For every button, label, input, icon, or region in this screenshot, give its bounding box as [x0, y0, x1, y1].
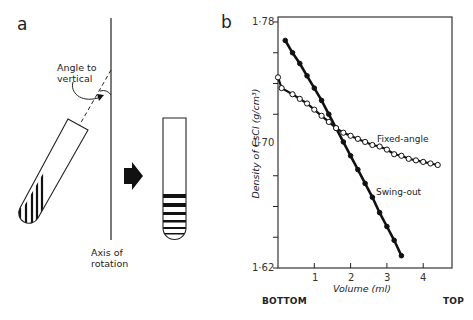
- y-tick-label-bottom: 1·62: [252, 262, 274, 273]
- data-point: [319, 113, 324, 118]
- data-point: [297, 61, 302, 66]
- data-point: [384, 147, 389, 152]
- bottom-label: BOTTOM: [262, 296, 307, 306]
- data-point: [304, 101, 309, 106]
- data-point: [392, 238, 397, 243]
- data-point: [406, 156, 411, 161]
- data-point: [275, 75, 280, 80]
- data-point: [327, 112, 332, 117]
- y-tick-label-top: 1·78: [252, 16, 274, 27]
- data-point: [370, 195, 375, 200]
- data-point: [312, 107, 317, 112]
- data-point: [305, 74, 310, 79]
- fixed-angle-series-label: Fixed-angle: [377, 134, 429, 145]
- data-point: [399, 153, 404, 158]
- data-point: [341, 130, 346, 135]
- data-point: [348, 133, 353, 138]
- data-point: [428, 161, 433, 166]
- data-point: [297, 96, 302, 101]
- x-tick-label-3: 3: [384, 272, 390, 283]
- data-point: [326, 119, 331, 124]
- top-label: TOP: [443, 296, 464, 306]
- data-point: [377, 210, 382, 215]
- data-point: [356, 167, 361, 172]
- data-point: [312, 86, 317, 91]
- data-point: [279, 86, 284, 91]
- data-point: [319, 98, 324, 103]
- x-tick-label-2: 2: [348, 272, 354, 283]
- data-point: [421, 159, 426, 164]
- data-point: [385, 224, 390, 229]
- data-point: [435, 162, 440, 167]
- data-point: [392, 152, 397, 157]
- data-point: [355, 136, 360, 141]
- data-point: [290, 50, 295, 55]
- data-point: [413, 158, 418, 163]
- data-point: [341, 140, 346, 145]
- y-axis-title: Density of CsCl (g/cm³): [250, 69, 261, 219]
- data-point: [363, 139, 368, 144]
- data-point: [370, 142, 375, 147]
- data-point: [283, 38, 288, 43]
- data-point: [399, 253, 404, 258]
- data-point: [348, 153, 353, 158]
- data-point: [333, 125, 338, 130]
- density-chart: [0, 0, 473, 320]
- swing-out-series-label: Swing-out: [376, 187, 421, 198]
- x-tick-label-4: 4: [420, 272, 426, 283]
- x-axis-title: Volume (ml): [333, 283, 391, 294]
- series-line-fixed-angle: [278, 77, 438, 165]
- data-point: [290, 92, 295, 97]
- data-point: [363, 181, 368, 186]
- x-tick-label-1: 1: [312, 272, 318, 283]
